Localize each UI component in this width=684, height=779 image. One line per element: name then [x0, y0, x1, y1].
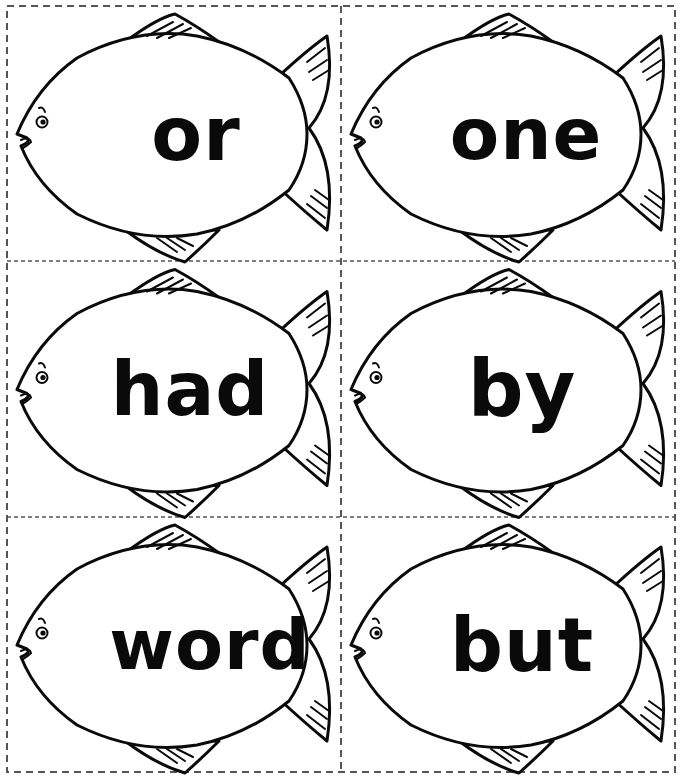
fish-outline-icon — [7, 6, 341, 261]
fish-card-by: by — [341, 261, 675, 517]
fish-outline-icon — [341, 517, 675, 772]
fish-card-or: or — [7, 6, 341, 261]
fish-outline-icon — [7, 517, 341, 772]
sight-word-fish-cards-sheet: or one — [0, 0, 684, 779]
fish-outline-icon — [341, 261, 675, 517]
fish-card-but: but — [341, 517, 675, 772]
fish-card-had: had — [7, 261, 341, 517]
fish-outline-icon — [341, 6, 675, 261]
fish-card-one: one — [341, 6, 675, 261]
fish-card-word: word — [7, 517, 341, 772]
fish-outline-icon — [7, 261, 341, 517]
